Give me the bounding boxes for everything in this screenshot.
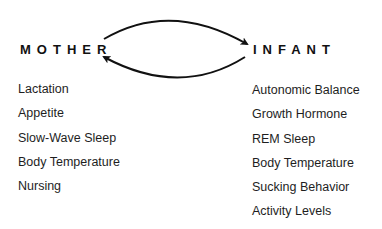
mother-factors-list: Lactation Appetite Slow-Wave Sleep Body …	[18, 81, 120, 202]
list-item: Lactation	[18, 81, 120, 105]
list-item: Growth Hormone	[252, 106, 360, 130]
mother-label: MOTHER	[20, 42, 112, 57]
list-item: Nursing	[18, 178, 120, 202]
arrow-infant-to-mother	[104, 57, 245, 78]
list-item: Body Temperature	[18, 154, 120, 178]
list-item: Body Temperature	[252, 155, 360, 179]
infant-factors-list: Autonomic Balance Growth Hormone REM Sle…	[252, 82, 360, 228]
infant-label: INFANT	[253, 42, 336, 57]
list-item: Autonomic Balance	[252, 82, 360, 106]
list-item: Activity Levels	[252, 203, 360, 227]
arrow-mother-to-infant	[104, 21, 247, 44]
list-item: REM Sleep	[252, 131, 360, 155]
list-item: Sucking Behavior	[252, 179, 360, 203]
list-item: Appetite	[18, 105, 120, 129]
list-item: Slow-Wave Sleep	[18, 130, 120, 154]
